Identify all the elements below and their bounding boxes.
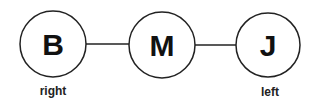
- node-b-label: right: [40, 84, 67, 98]
- node-diagram: B right M J left: [0, 0, 321, 106]
- node-b: B right: [20, 11, 86, 98]
- node-j-label: left: [261, 85, 279, 99]
- node-j: J left: [236, 13, 300, 99]
- node-m: M: [129, 12, 195, 78]
- node-m-letter: M: [150, 29, 175, 62]
- node-b-letter: B: [42, 28, 64, 61]
- node-j-letter: J: [260, 29, 277, 62]
